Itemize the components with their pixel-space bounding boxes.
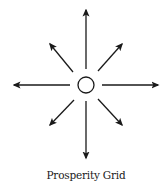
arrow-south-west-icon — [50, 100, 74, 125]
arrow-south-east-icon — [98, 99, 122, 125]
prosperity-grid-diagram — [0, 0, 168, 192]
arrow-north-west-icon — [50, 44, 73, 72]
center-circle-icon — [78, 77, 94, 93]
diagram-caption: Prosperity Grid — [0, 169, 168, 181]
arrow-north-east-icon — [98, 44, 122, 71]
arrows-group — [14, 10, 158, 158]
